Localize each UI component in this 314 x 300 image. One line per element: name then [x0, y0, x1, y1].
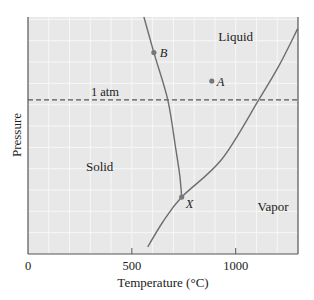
- region-label-liquid: Liquid: [218, 29, 253, 44]
- point-a-label: A: [216, 75, 225, 89]
- one-atm-label: 1 atm: [91, 85, 119, 99]
- x-axis-title: Temperature (°C): [117, 275, 208, 290]
- y-axis-title: Pressure: [9, 113, 24, 157]
- point-a-marker: [209, 78, 214, 83]
- point-b-label: B: [160, 46, 168, 60]
- point-x-label: X: [185, 197, 195, 211]
- region-label-vapor: Vapor: [258, 199, 290, 214]
- x-tick-label: 500: [122, 259, 141, 273]
- phase-diagram: 1 atm ABX LiquidSolidVapor 05001000 Temp…: [0, 0, 314, 300]
- point-b-marker: [151, 50, 156, 55]
- region-label-solid: Solid: [86, 159, 114, 174]
- x-tick-label: 0: [25, 259, 31, 273]
- x-tick-label: 1000: [223, 259, 248, 273]
- point-x-marker: [179, 195, 184, 200]
